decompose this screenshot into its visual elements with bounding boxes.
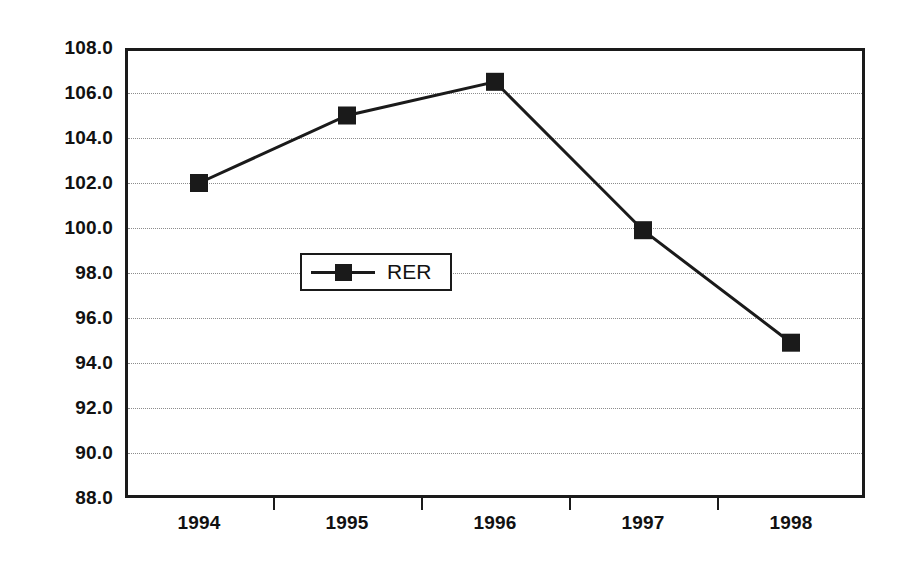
chart-page: 108.0106.0104.0102.0100.098.096.094.092.… [0,0,899,574]
y-axis-tick-label: 92.0 [75,397,113,419]
y-axis-tick-label: 102.0 [64,172,113,194]
x-axis-tick-mark [273,498,275,510]
x-axis-tick-label: 1994 [177,512,220,534]
gridline [128,408,862,409]
legend-marker-icon [311,261,375,283]
x-axis-tick-label: 1996 [473,512,516,534]
y-axis-tick-label: 100.0 [64,217,113,239]
x-axis-tick-label: 1997 [621,512,664,534]
gridline [128,273,862,274]
line-chart: 108.0106.0104.0102.0100.098.096.094.092.… [0,0,899,574]
gridline [128,93,862,94]
legend-label: RER [387,260,431,284]
y-axis-tick-label: 104.0 [64,127,113,149]
x-axis-tick-label: 1995 [325,512,368,534]
gridline [128,138,862,139]
x-axis-tick-mark [569,498,571,510]
y-axis-tick-label: 94.0 [75,352,113,374]
y-axis-tick-label: 88.0 [75,487,113,509]
gridline [128,318,862,319]
gridline [128,183,862,184]
gridline [128,228,862,229]
x-axis-tick-mark [717,498,719,510]
gridline [128,363,862,364]
x-axis-tick-label: 1998 [769,512,812,534]
y-axis-tick-label: 106.0 [64,82,113,104]
gridline [128,453,862,454]
chart-legend: RER [300,253,452,291]
plot-area [125,48,865,498]
y-axis-tick-label: 98.0 [75,262,113,284]
x-axis-tick-mark [421,498,423,510]
y-axis-tick-label: 90.0 [75,442,113,464]
y-axis-tick-label: 96.0 [75,307,113,329]
y-axis-tick-label: 108.0 [64,37,113,59]
